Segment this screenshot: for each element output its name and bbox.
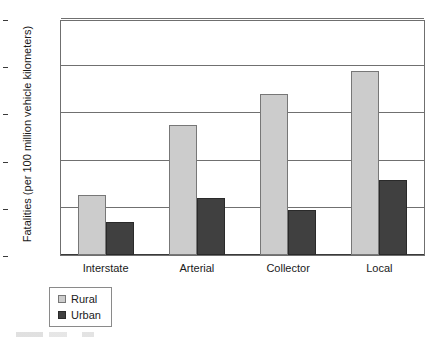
x-tick-label-collector: Collector [243,258,334,278]
gridline [61,18,424,19]
chart-legend: RuralUrban [49,287,112,327]
y-tick-mark [3,114,8,115]
bar-group [333,21,424,255]
y-tick-mark [3,256,8,257]
bar-chart-figure: Fatalities (per 100 million vehicle kilo… [0,0,435,339]
bar-group [243,21,334,255]
bar-interstate-rural[interactable] [78,195,106,255]
legend-swatch-urban-icon [58,311,66,319]
bar-local-urban[interactable] [379,180,407,255]
bar-pair [333,21,424,255]
legend-swatch-rural-icon [58,295,66,303]
bar-arterial-rural[interactable] [169,125,197,255]
bar-collector-rural[interactable] [260,94,288,255]
y-tick-mark [3,20,8,21]
y-tick-mark [3,162,8,163]
bar-groups [61,21,424,255]
legend-item-urban[interactable]: Urban [58,307,101,323]
y-tick-mark [3,209,8,210]
x-tick-label-local: Local [334,258,425,278]
plot-area [60,20,425,256]
bar-arterial-urban[interactable] [197,198,225,255]
bar-interstate-urban[interactable] [106,222,134,255]
legend-label: Rural [71,293,97,305]
legend-item-rural[interactable]: Rural [58,291,101,307]
y-tick-mark [3,67,8,68]
y-axis-title: Fatalities (per 100 million vehicle kilo… [21,9,33,259]
bar-pair [61,21,152,255]
bar-pair [243,21,334,255]
clipped-caption-fragment [16,332,166,337]
bar-collector-urban[interactable] [288,210,316,255]
bar-local-rural[interactable] [351,71,379,255]
bar-group [152,21,243,255]
x-tick-label-arterial: Arterial [151,258,242,278]
x-axis-labels: InterstateArterialCollectorLocal [60,258,425,278]
bar-pair [152,21,243,255]
bar-group [61,21,152,255]
x-tick-label-interstate: Interstate [60,258,151,278]
legend-label: Urban [71,309,101,321]
